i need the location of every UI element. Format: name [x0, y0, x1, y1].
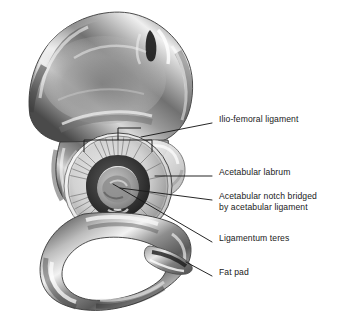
label-fat-pad: Fat pad [219, 267, 249, 278]
iliac-wing [29, 12, 193, 142]
label-ligamentum-teres: Ligamentum teres [219, 233, 289, 244]
label-ilio-femoral-ligament: Ilio-femoral ligament [219, 114, 298, 125]
hip-anatomy-figure: Ilio-femoral ligament Acetabular labrum … [0, 0, 352, 332]
label-acetabular-labrum: Acetabular labrum [219, 167, 290, 178]
anatomy-illustration [0, 0, 352, 332]
